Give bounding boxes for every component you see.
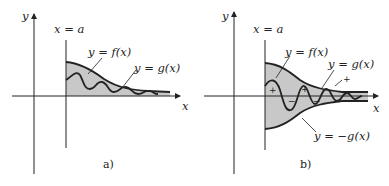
vertical-line-label-a: x = a <box>54 22 84 36</box>
curve-g-label-b: y = g(x) <box>327 57 374 71</box>
curve-f-label-b: y = f(x) <box>284 45 328 59</box>
sign-minus-1: − <box>288 96 296 106</box>
sign-minus-2: − <box>313 96 321 106</box>
vertical-line-label-b: x = a <box>253 22 283 36</box>
caption-b: b) <box>300 158 311 171</box>
x-axis-label-a: x <box>182 99 189 113</box>
curve-neg-g-label-b: y = −g(x) <box>313 129 370 143</box>
panel-a: y x x = a y = f(x) y = g(x) a) <box>12 9 189 174</box>
sign-plus-1: + <box>269 85 277 95</box>
leader-g-b <box>322 70 334 88</box>
curve-f-label-a: y = f(x) <box>87 45 131 59</box>
caption-a: a) <box>103 158 114 171</box>
sign-plus-3: + <box>343 74 351 84</box>
panel-b: + − + − + y x x = a y = f(x) y = g(x) y … <box>204 9 380 174</box>
curve-g-label-a: y = g(x) <box>133 61 180 75</box>
x-axis-label-b: x <box>373 101 380 115</box>
leader-plus-b <box>335 80 342 86</box>
y-axis-label-b: y <box>221 9 229 23</box>
figure: y x x = a y = f(x) y = g(x) a) + − + − + <box>0 0 389 186</box>
y-axis-label-a: y <box>21 9 29 23</box>
leader-f-a <box>88 58 102 74</box>
sign-plus-2: + <box>301 84 309 94</box>
